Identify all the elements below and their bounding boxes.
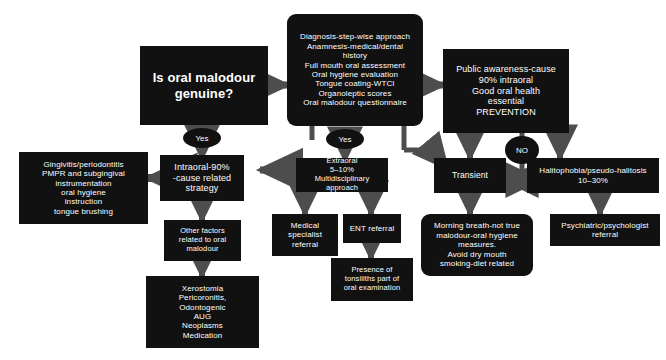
node-psychiatric-referral[interactable]: Psychiatric/psychologist referral	[550, 214, 660, 246]
node-intraoral-strategy[interactable]: Intraoral-90% -cause related strategy	[160, 155, 244, 201]
decision-yes-center[interactable]: Yes	[326, 129, 364, 149]
node-halitophobia[interactable]: Halitophobia/pseudo-halitosis 10–30%	[527, 158, 659, 193]
node-gingivitis-periodontitis[interactable]: Gingivitis/periodontitis PMPR and subgin…	[19, 152, 148, 224]
node-transient[interactable]: Transient	[434, 158, 506, 193]
node-xerostomia-list[interactable]: Xerostomia Pericoronitis, Odontogenic AU…	[146, 276, 259, 348]
decision-yes-left[interactable]: Yes	[183, 128, 221, 148]
node-extraoral[interactable]: Extraoral 5–10% Multidisciplinary approa…	[296, 158, 388, 192]
node-tonsiliths[interactable]: Presence of tonsiliths part of oral exam…	[331, 258, 413, 301]
node-other-factors[interactable]: Other factors related to oral malodour	[164, 220, 241, 261]
flowchart-canvas: Is oral malodour genuine? Diagnosis-step…	[0, 0, 666, 360]
node-diagnosis[interactable]: Diagnosis-step-wise approach Anamnesis-m…	[287, 14, 423, 126]
node-morning-breath[interactable]: Morning breath-not true malodour-oral hy…	[421, 214, 533, 276]
node-ent-referral[interactable]: ENT referral	[343, 214, 401, 243]
decision-no-right[interactable]: NO	[505, 136, 539, 164]
node-prevention[interactable]: Public awareness-cause 90% intraoral Goo…	[443, 49, 569, 133]
node-start[interactable]: Is oral malodour genuine?	[140, 46, 268, 125]
node-medical-specialist-referral[interactable]: Medical specialist referral	[272, 214, 338, 256]
